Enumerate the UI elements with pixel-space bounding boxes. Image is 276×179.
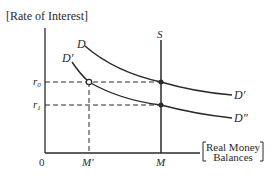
x-label-right-bracket <box>260 142 263 161</box>
money-market-diagram: [Rate of Interest] D D′ D′ D″ S r0 r1 0 … <box>0 0 276 179</box>
y-axis-label-text: [Rate of Interest] <box>6 9 88 23</box>
label-dprime-start: D′ <box>61 51 74 65</box>
equilibrium-point-r0-m <box>159 80 164 85</box>
point-r0-mprime <box>86 79 91 84</box>
label-dprime-end: D′ <box>233 88 246 102</box>
equilibrium-point-r1-m <box>159 103 164 108</box>
label-r0: r0 <box>33 75 41 89</box>
x-axis-label: Real Money Balances <box>203 141 263 163</box>
label-ddoubleprime: D″ <box>233 111 249 125</box>
label-m: M <box>155 156 166 168</box>
y-axis-label: [Rate of Interest] <box>6 9 88 23</box>
label-mprime: M′ <box>81 156 94 168</box>
label-s: S <box>157 28 163 40</box>
label-origin: 0 <box>39 156 45 168</box>
demand-curve-d <box>85 46 232 95</box>
x-axis-label-line2: Balances <box>213 151 253 163</box>
demand-curve-dprime <box>72 62 232 118</box>
label-r1: r1 <box>33 98 41 112</box>
label-d: D <box>76 37 86 51</box>
